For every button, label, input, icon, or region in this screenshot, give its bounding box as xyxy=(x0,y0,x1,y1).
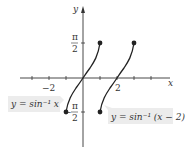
svg-text:y = sin⁻¹ x: y = sin⁻¹ x xyxy=(10,99,59,109)
endpoint-dot xyxy=(64,110,69,115)
x-tick-label-neg2: −2 xyxy=(42,83,55,93)
curve-arcsin-x-minus-2 xyxy=(100,43,134,112)
x-axis-label: x xyxy=(168,78,173,88)
y-axis-arrow-icon xyxy=(81,6,85,13)
svg-text:2: 2 xyxy=(72,44,78,54)
label-arcsin-x: y = sin⁻¹ x xyxy=(8,96,64,112)
y-axis-label: y xyxy=(72,4,79,14)
y-tick-label-pi-over-2: π 2 xyxy=(71,32,78,54)
endpoint-dot xyxy=(98,41,103,46)
label-arcsin-x-minus-2: y = sin⁻¹ (x − 2) xyxy=(104,105,185,124)
svg-text:y = sin⁻¹ (x − 2): y = sin⁻¹ (x − 2) xyxy=(110,112,185,122)
svg-text:π: π xyxy=(72,32,78,42)
x-tick-label-2: 2 xyxy=(115,83,121,93)
x-axis xyxy=(20,76,170,80)
endpoint-dot xyxy=(132,41,137,46)
endpoint-dot xyxy=(98,110,103,115)
diagram-canvas: y x −2 2 π 2 − π 2 y = sin⁻¹ x y = sin⁻¹… xyxy=(0,0,187,155)
svg-text:π: π xyxy=(72,101,78,111)
svg-text:2: 2 xyxy=(72,113,78,123)
